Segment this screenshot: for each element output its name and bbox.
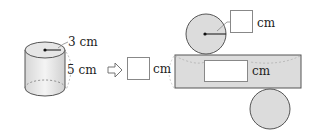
radius-unit: cm: [257, 17, 275, 29]
side-height-answer-box[interactable]: [127, 57, 150, 80]
radius-answer-box[interactable]: [230, 10, 253, 33]
net-top-circle: [186, 14, 230, 54]
side-width-answer-box[interactable]: [204, 60, 248, 82]
radius-label: 3 cm: [68, 36, 98, 48]
net-bottom-circle: [250, 89, 290, 129]
side-height-unit: cm: [153, 63, 171, 75]
right-hollow-arrow-icon: [108, 63, 122, 77]
side-width-unit: cm: [252, 65, 270, 77]
height-label: 5 cm: [67, 64, 97, 76]
cylinder: [25, 42, 71, 96]
